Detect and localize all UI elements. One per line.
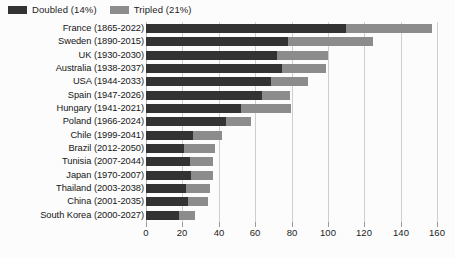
x-tick-label: 40: [214, 228, 225, 238]
bar-segment-tripled: [271, 77, 307, 86]
bar-row: Hungary (1941-2021): [0, 102, 455, 115]
bar-segment-doubled: [146, 37, 288, 46]
bar-group: [146, 184, 210, 193]
category-label: Hungary (1941-2021): [0, 104, 144, 113]
category-label: Japan (1970-2007): [0, 171, 144, 180]
x-tick-label: 160: [429, 228, 445, 238]
category-label: USA (1944-2033): [0, 77, 144, 86]
chart-legend: Doubled (14%) Tripled (21%): [8, 3, 192, 17]
bar-segment-doubled: [146, 157, 190, 166]
category-label: Sweden (1890-2015): [0, 37, 144, 46]
category-label: China (2001-2035): [0, 197, 144, 206]
bar-segment-tripled: [184, 144, 215, 153]
category-label: Australia (1938-2037): [0, 64, 144, 73]
bar-group: [146, 197, 208, 206]
category-label: France (1865-2022): [0, 24, 144, 33]
bar-segment-tripled: [190, 157, 214, 166]
category-label: Tunisia (2007-2044): [0, 157, 144, 166]
x-tick-label: 0: [143, 228, 148, 238]
bar-segment-doubled: [146, 171, 191, 180]
category-label: Thailand (2003-2038): [0, 184, 144, 193]
category-label: Poland (1966-2024): [0, 117, 144, 126]
bar-row: China (2001-2035): [0, 195, 455, 208]
bar-row: Spain (1947-2026): [0, 89, 455, 102]
bar-segment-doubled: [146, 51, 277, 60]
bar-segment-tripled: [188, 197, 208, 206]
bar-segment-tripled: [241, 104, 292, 113]
bar-segment-tripled: [226, 117, 251, 126]
legend-swatch-doubled: [8, 6, 27, 14]
bar-segment-doubled: [146, 77, 271, 86]
bar-segment-doubled: [146, 197, 188, 206]
legend-item-doubled: Doubled (14%): [8, 5, 97, 15]
x-tick-label: 120: [356, 228, 372, 238]
bar-row: South Korea (2000-2027): [0, 209, 455, 222]
bar-row: Sweden (1890-2015): [0, 35, 455, 48]
bar-row: France (1865-2022): [0, 22, 455, 35]
bar-segment-tripled: [282, 64, 326, 73]
bar-segment-tripled: [288, 37, 373, 46]
x-axis: 020406080100120140160: [0, 222, 455, 246]
bar-group: [146, 37, 373, 46]
bar-row: Australia (1938-2037): [0, 62, 455, 75]
x-tick-label: 80: [287, 228, 298, 238]
legend-label-doubled: Doubled (14%): [32, 5, 97, 15]
bar-row: UK (1930-2030): [0, 49, 455, 62]
category-label: Brazil (2012-2050): [0, 144, 144, 153]
category-label: South Korea (2000-2027): [0, 211, 144, 220]
x-tick-label: 60: [250, 228, 261, 238]
bar-segment-tripled: [179, 211, 195, 220]
category-label: Spain (1947-2026): [0, 91, 144, 100]
bar-group: [146, 211, 195, 220]
bar-group: [146, 24, 432, 33]
bar-segment-tripled: [186, 184, 210, 193]
legend-item-tripled: Tripled (21%): [110, 5, 192, 15]
bar-group: [146, 117, 251, 126]
bar-segment-doubled: [146, 144, 184, 153]
bar-segment-doubled: [146, 211, 179, 220]
bar-segment-doubled: [146, 184, 186, 193]
plot-area: France (1865-2022)Sweden (1890-2015)UK (…: [0, 22, 455, 232]
bar-group: [146, 51, 328, 60]
bar-row: USA (1944-2033): [0, 75, 455, 88]
bar-segment-doubled: [146, 117, 226, 126]
bar-group: [146, 171, 213, 180]
bar-row: Thailand (2003-2038): [0, 182, 455, 195]
legend-swatch-tripled: [110, 6, 129, 14]
category-label: Chile (1999-2041): [0, 131, 144, 140]
x-tick-label: 20: [177, 228, 188, 238]
bar-segment-tripled: [346, 24, 431, 33]
x-tick-label: 100: [320, 228, 336, 238]
bar-segment-tripled: [193, 131, 222, 140]
bar-segment-doubled: [146, 91, 262, 100]
bar-group: [146, 131, 222, 140]
bar-group: [146, 77, 308, 86]
bar-segment-tripled: [262, 91, 289, 100]
bar-row: Tunisia (2007-2044): [0, 155, 455, 168]
bar-segment-doubled: [146, 64, 282, 73]
x-tick-label: 140: [393, 228, 409, 238]
bar-group: [146, 144, 215, 153]
bar-row: Japan (1970-2007): [0, 169, 455, 182]
bar-row: Poland (1966-2024): [0, 115, 455, 128]
bar-row: Brazil (2012-2050): [0, 142, 455, 155]
bar-chart: Doubled (14%) Tripled (21%) France (1865…: [0, 0, 455, 258]
bar-segment-tripled: [191, 171, 213, 180]
bar-rows: France (1865-2022)Sweden (1890-2015)UK (…: [0, 22, 455, 222]
bar-group: [146, 157, 213, 166]
bar-segment-doubled: [146, 131, 193, 140]
legend-label-tripled: Tripled (21%): [134, 5, 192, 15]
bar-group: [146, 104, 291, 113]
bar-group: [146, 91, 290, 100]
bar-segment-tripled: [277, 51, 328, 60]
bar-group: [146, 64, 326, 73]
bar-segment-doubled: [146, 24, 346, 33]
bar-segment-doubled: [146, 104, 241, 113]
category-label: UK (1930-2030): [0, 51, 144, 60]
bar-row: Chile (1999-2041): [0, 129, 455, 142]
